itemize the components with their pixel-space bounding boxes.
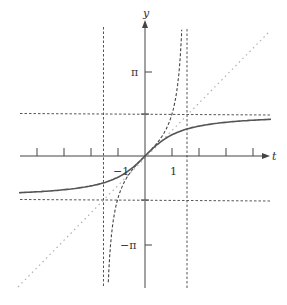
x-axis-arrow-icon <box>262 153 270 159</box>
y-axis-arrow-icon <box>142 20 148 28</box>
tick-label-neg1: −1 <box>113 165 129 178</box>
axes <box>20 24 266 288</box>
plot-canvas: t y −1 1 π −π <box>0 0 287 305</box>
tick-label-1: 1 <box>170 165 177 178</box>
identity-line <box>18 33 268 287</box>
x-axis-label: t <box>272 150 277 163</box>
tick-label-neg-pi: −π <box>120 239 136 252</box>
function-plot: t y −1 1 π −π <box>0 0 287 305</box>
tick-label-pi: π <box>131 66 138 79</box>
y-axis-label: y <box>142 7 150 20</box>
